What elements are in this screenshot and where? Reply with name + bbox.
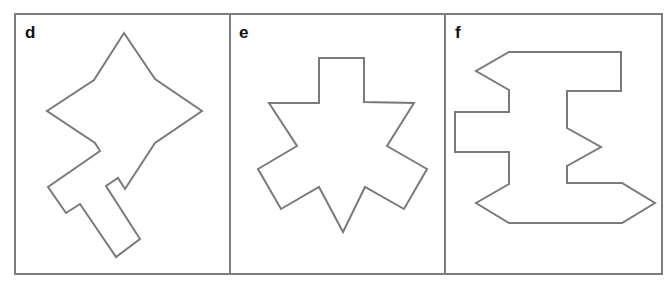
shape-figure: d e f bbox=[0, 0, 670, 283]
shape-e-polygon bbox=[258, 58, 427, 232]
shape-f-polygon bbox=[455, 52, 655, 223]
shape-d-polygon bbox=[47, 33, 202, 257]
shapes-canvas bbox=[0, 0, 670, 283]
